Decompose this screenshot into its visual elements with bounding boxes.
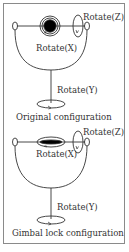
flattened-inner-disc-icon xyxy=(40,140,62,144)
label-rotate-y-1: Rotate(Y) xyxy=(57,85,98,95)
label-rotate-z-2: Rotate(Z) xyxy=(83,127,124,137)
label-rotate-x-1: Rotate(X) xyxy=(36,43,77,53)
caption-original: Original configuration xyxy=(16,112,112,122)
left-pivot-icon xyxy=(13,138,18,146)
label-rotate-y-2: Rotate(Y) xyxy=(57,202,98,212)
right-pivot-icon xyxy=(85,22,90,30)
right-pivot-icon xyxy=(85,138,90,146)
z-rotate-arrow-icon xyxy=(76,30,79,33)
label-rotate-x-2: Rotate(X) xyxy=(36,149,77,159)
left-pivot-icon xyxy=(13,22,18,30)
label-rotate-z-1: Rotate(Z) xyxy=(83,12,124,22)
caption-gimbal-lock: Gimbal lock configuration xyxy=(12,228,124,238)
inner-disc-icon xyxy=(44,20,56,32)
gimbal-diagram: Rotate(Z) Rotate(X) Rotate(Y) Original c… xyxy=(0,0,129,252)
